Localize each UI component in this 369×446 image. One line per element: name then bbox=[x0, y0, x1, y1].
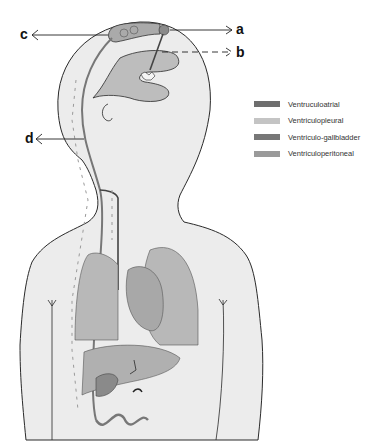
legend-label: Ventriculo-gallbladder bbox=[288, 133, 360, 142]
legend-item-ventriculoatrial: Ventruculoatrial bbox=[254, 96, 360, 113]
legend-label: Ventriculoperitoneal bbox=[288, 149, 354, 158]
label-b: b bbox=[236, 45, 245, 59]
legend-item-ventriculopleural: Ventriculopleural bbox=[254, 113, 360, 130]
legend-item-ventriculo-gallbladder: Ventriculo-gallbladder bbox=[254, 129, 360, 146]
label-a: a bbox=[236, 22, 244, 36]
legend-label: Ventriculopleural bbox=[288, 116, 343, 125]
legend-swatch bbox=[254, 101, 280, 107]
legend-swatch bbox=[254, 151, 280, 157]
legend-swatch bbox=[254, 134, 280, 140]
legend: Ventruculoatrial Ventriculopleural Ventr… bbox=[254, 96, 360, 162]
legend-swatch bbox=[254, 118, 280, 124]
shunt-burr-hole bbox=[159, 25, 169, 35]
legend-item-ventriculoperitoneal: Ventriculoperitoneal bbox=[254, 146, 360, 163]
label-c: c bbox=[20, 27, 28, 41]
label-d: d bbox=[25, 131, 34, 145]
legend-label: Ventruculoatrial bbox=[288, 100, 340, 109]
shunt-diagram bbox=[0, 0, 369, 446]
